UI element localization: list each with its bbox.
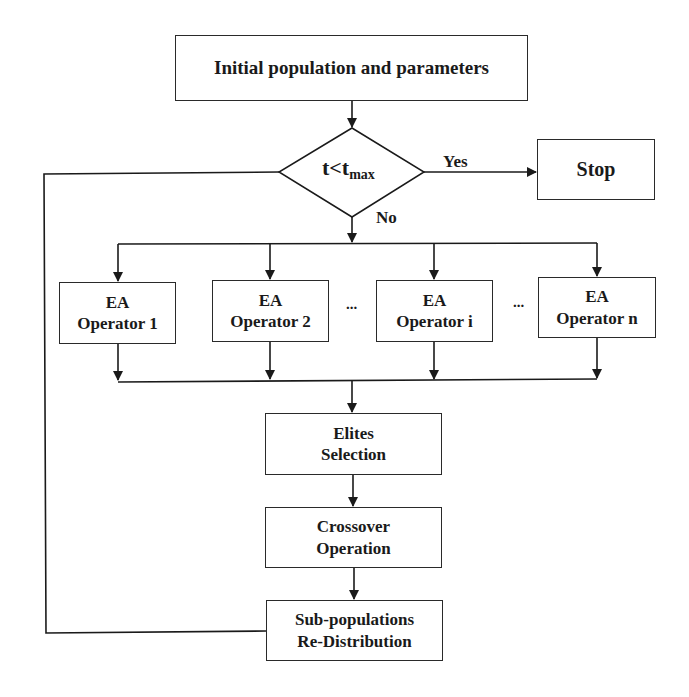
ea-operator-1-box: EA Operator 1 — [59, 282, 176, 344]
initial-population-box: Initial population and parameters — [175, 35, 528, 101]
no-label: No — [376, 208, 397, 228]
ellipsis-1: ... — [346, 296, 357, 313]
crossover-operation-box: Crossover Operation — [265, 507, 442, 568]
elites-selection-box: Elites Selection — [265, 413, 442, 475]
distribution-bus — [118, 243, 597, 244]
stop-label: Stop — [577, 157, 616, 182]
ea-operator-2-box: EA Operator 2 — [212, 280, 329, 342]
merge-bus — [118, 379, 597, 382]
decision-label: t<tmax — [322, 155, 375, 183]
stop-box: Stop — [537, 139, 655, 200]
ea-operator-i-box: EA Operator i — [376, 280, 493, 342]
feedback-loop-line — [44, 172, 279, 633]
yes-label: Yes — [443, 152, 468, 172]
ellipsis-2: ... — [513, 294, 524, 311]
subpopulations-redistribution-box: Sub-populations Re-Distribution — [266, 600, 443, 661]
initial-population-label: Initial population and parameters — [214, 56, 489, 80]
ea-operator-n-box: EA Operator n — [538, 277, 656, 338]
connector-lines — [0, 0, 689, 697]
